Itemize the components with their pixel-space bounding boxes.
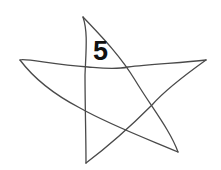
star-stroke-bottom-left-to-top <box>83 17 86 163</box>
star-number-label: 5 <box>93 38 108 65</box>
star-stroke-left-to-right <box>20 60 206 69</box>
star-stroke-right-to-bottom-left <box>86 60 206 163</box>
star-stroke-bottom-right-to-left <box>20 60 178 152</box>
drawing-canvas: 5 <box>0 0 221 170</box>
star-drawing <box>0 0 221 170</box>
